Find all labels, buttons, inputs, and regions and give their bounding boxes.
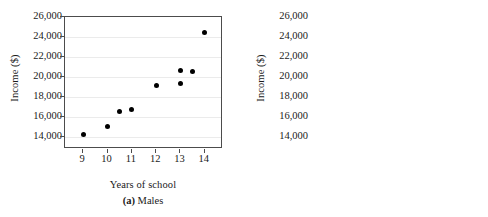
plot-area-males <box>64 16 222 148</box>
panel-caption-name-males: Males <box>135 195 163 206</box>
y-tick-label: 16,000 <box>262 110 308 122</box>
y-tick-mark <box>60 36 64 37</box>
gridline <box>65 77 221 78</box>
panel-males: Income ($) 14,00016,00018,00020,00022,00… <box>0 0 244 217</box>
data-point <box>178 81 183 86</box>
gridline <box>65 37 221 38</box>
y-tick-label: 14,000 <box>16 130 62 142</box>
data-point <box>202 30 207 35</box>
x-axis-label-males: Years of school <box>64 178 222 191</box>
y-tick-mark <box>60 136 64 137</box>
x-tick-label: 13 <box>166 153 192 165</box>
panel-caption-males: (a) Males <box>64 194 222 207</box>
y-tick-mark <box>60 16 64 17</box>
y-tick-mark <box>60 116 64 117</box>
y-tick-labels-females: 14,00016,00018,00020,00022,00024,00026,0… <box>260 0 308 217</box>
x-tick-label: 14 <box>191 153 217 165</box>
y-tick-label: 18,000 <box>16 90 62 102</box>
y-tick-label: 24,000 <box>262 30 308 42</box>
gridline <box>65 97 221 98</box>
data-point <box>129 107 134 112</box>
data-point <box>117 109 122 114</box>
y-tick-label: 20,000 <box>262 70 308 82</box>
y-tick-labels-males: 14,00016,00018,00020,00022,00024,00026,0… <box>14 0 62 217</box>
data-point <box>154 83 159 88</box>
y-tick-label: 16,000 <box>16 110 62 122</box>
gridline <box>65 117 221 118</box>
panel-females: Income ($) 14,00016,00018,00020,00022,00… <box>244 0 488 217</box>
y-tick-mark <box>60 96 64 97</box>
y-tick-label: 24,000 <box>16 30 62 42</box>
y-tick-mark <box>60 76 64 77</box>
scatter-plot-figure: Income ($) 14,00016,00018,00020,00022,00… <box>0 0 488 217</box>
y-tick-label: 20,000 <box>16 70 62 82</box>
y-tick-label: 18,000 <box>262 90 308 102</box>
data-point <box>105 124 110 129</box>
x-tick-label: 10 <box>94 153 120 165</box>
y-tick-label: 26,000 <box>16 10 62 22</box>
panel-caption-letter-males: (a) <box>123 195 135 206</box>
x-tick-label: 11 <box>118 153 144 165</box>
y-tick-label: 22,000 <box>16 50 62 62</box>
gridline <box>65 137 221 138</box>
gridline <box>65 57 221 58</box>
x-tick-label: 9 <box>69 153 95 165</box>
y-tick-label: 22,000 <box>262 50 308 62</box>
y-tick-label: 14,000 <box>262 130 308 142</box>
y-tick-mark <box>60 56 64 57</box>
data-point <box>178 68 183 73</box>
data-point <box>81 132 86 137</box>
x-tick-label: 12 <box>142 153 168 165</box>
y-tick-label: 26,000 <box>262 10 308 22</box>
data-point <box>190 69 195 74</box>
